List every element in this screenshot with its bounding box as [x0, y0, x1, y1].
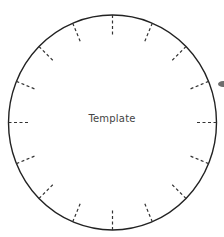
tick-mark	[73, 23, 81, 43]
edge-marker-icon	[218, 81, 224, 87]
tick-mark	[16, 155, 36, 163]
tick-mark	[188, 81, 208, 89]
tick-mark	[144, 201, 152, 221]
tick-mark	[16, 81, 36, 89]
tick-mark	[39, 183, 55, 199]
tick-mark	[144, 23, 152, 43]
tick-mark	[170, 183, 186, 199]
tick-mark	[170, 46, 186, 62]
tick-mark	[73, 201, 81, 221]
tick-mark	[188, 155, 208, 163]
tick-mark	[39, 46, 55, 62]
template-label: Template	[0, 113, 224, 124]
